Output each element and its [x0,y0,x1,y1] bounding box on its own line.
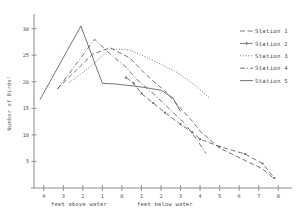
x-tick-label: 8 [277,193,280,199]
series-marker [152,102,154,104]
series-marker [180,123,182,125]
x-axis-caption-left: feet above water [51,201,107,207]
series-marker [125,77,127,79]
line-chart: 51015202530Number of Birds¹ 432101234567… [0,0,299,212]
chart-legend: Station 1Station 2Station 3Station 4Stat… [240,28,288,84]
y-tick-label: 10 [23,132,29,138]
legend-label-5: Station 5 [255,78,288,84]
series-marker [244,153,246,155]
x-tick-label: 1 [140,193,143,199]
series-marker [219,146,221,148]
legend-label-2: Station 2 [255,41,288,47]
series-marker [141,93,143,95]
x-tick-label: 3 [179,193,182,199]
x-tick-label: 7 [257,193,260,199]
series-line-4 [57,39,205,153]
x-tick-label: 2 [81,193,84,199]
y-tick-label: 20 [23,79,29,85]
data-series-group [40,26,275,179]
series-line-5 [40,26,181,112]
series-line-2 [126,78,274,178]
legend-marker [246,42,248,44]
series-marker [133,82,135,84]
x-tick-label: 6 [238,193,241,199]
x-axis-caption-right: feet below water [137,201,193,207]
series-marker [199,138,201,140]
x-tick-label: 1 [101,193,104,199]
x-tick-label: 5 [218,193,221,199]
x-axis: 4321012345678 [31,185,292,199]
chart-container: 51015202530Number of Birds¹ 432101234567… [0,0,299,212]
y-tick-label: 15 [23,105,29,111]
x-tick-label: 3 [62,193,65,199]
legend-label-3: Station 3 [255,53,288,59]
x-tick-label: 4 [42,193,45,199]
y-tick-label: 30 [23,26,29,32]
series-marker [262,163,264,165]
series-marker [164,112,166,114]
x-tick-label: 2 [159,193,162,199]
axis-captions: feet above waterfeet below water [51,201,193,207]
y-tick-label: 5 [26,158,29,164]
y-tick-label: 25 [23,52,29,58]
series-marker [273,177,275,179]
legend-label-1: Station 1 [255,28,288,34]
y-axis: 51015202530Number of Birds¹ [6,14,37,188]
x-tick-label: 4 [199,193,202,199]
legend-label-4: Station 4 [255,65,288,71]
x-tick-label: 0 [120,193,123,199]
y-axis-title: Number of Birds¹ [6,76,12,131]
